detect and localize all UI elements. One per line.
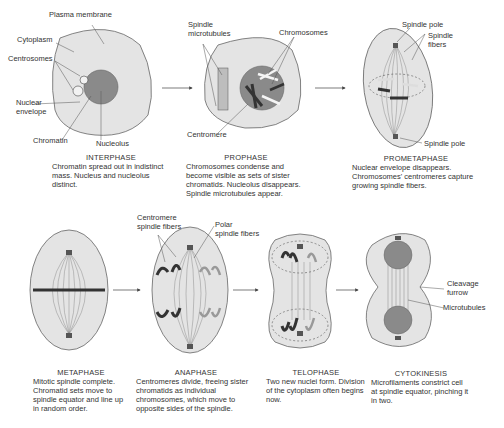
label-spindle-fibers: spindle fibers	[137, 223, 181, 232]
caption-anaphase: ANAPHASE Centromeres divide, freeing sis…	[136, 368, 256, 413]
label-centrosomes: Centrosomes	[8, 55, 53, 64]
stage-title: PROPHASE	[186, 153, 306, 162]
stage-title: TELOPHASE	[266, 368, 366, 377]
label-plasma-membrane: Plasma membrane	[49, 11, 112, 20]
label-centromere: Centromere	[187, 131, 227, 140]
caption-interphase: INTERPHASE Chromatin spread out in indis…	[52, 153, 170, 189]
stage-title: PROMETAPHASE	[352, 154, 480, 163]
stage-description: Nuclear envelope disappears. Chromosomes…	[352, 163, 480, 190]
label-polar-spindle-fibers: spindle fibers	[215, 230, 259, 239]
prophase-cell	[203, 37, 301, 133]
stage-description: Centromeres divide, freeing sister chrom…	[136, 377, 256, 413]
stage-description: Chromatin spread out in indistinct mass.…	[52, 162, 170, 189]
caption-telophase: TELOPHASE Two new nuclei form. Division …	[266, 368, 366, 404]
stage-title: METAPHASE	[33, 368, 129, 377]
caption-metaphase: METAPHASE Mitotic spindle complete. Chro…	[33, 368, 129, 413]
caption-prophase: PROPHASE Chromosomes condense and become…	[186, 153, 306, 198]
label-spindle-pole-bottom: Spindle pole	[424, 140, 465, 149]
label-furrow: furrow	[447, 289, 468, 298]
centrosome	[73, 86, 83, 96]
caption-cytokinesis: CYTOKINESIS Microfilaments constrict cel…	[371, 369, 471, 405]
label-fibers: fibers	[428, 41, 446, 50]
telophase-cell	[269, 234, 331, 348]
stage-title: INTERPHASE	[52, 153, 170, 162]
label-microtubules: microtubules	[188, 30, 231, 39]
mitosis-diagram	[0, 0, 504, 428]
spindle	[218, 68, 228, 110]
metaphase-cell	[30, 230, 108, 350]
cytokinesis-cell	[366, 234, 444, 347]
centrosome	[80, 76, 88, 84]
stage-description: Chromosomes condense and become visible …	[186, 162, 306, 198]
stage-description: Mitotic spindle complete. Chromatid sets…	[33, 377, 129, 413]
label-chromatin: Chromatin	[33, 137, 68, 146]
label-chromosomes: Chromosomes	[279, 29, 328, 38]
label-nucleolus: Nucleolus	[96, 140, 129, 149]
label-spindle-pole-top: Spindle pole	[402, 21, 443, 30]
label-envelope: envelope	[16, 108, 46, 117]
stage-description: Microfilaments constrict cell at spindle…	[371, 378, 471, 405]
stage-title: CYTOKINESIS	[371, 369, 471, 378]
anaphase-cell	[152, 226, 228, 353]
label-cytoplasm: Cytoplasm	[17, 36, 52, 45]
stage-description: Two new nuclei form. Division of the cyt…	[266, 377, 366, 404]
caption-prometaphase: PROMETAPHASE Nuclear envelope disappears…	[352, 154, 480, 190]
label-microtubules: Microtubules	[443, 304, 486, 313]
stage-title: ANAPHASE	[136, 368, 256, 377]
